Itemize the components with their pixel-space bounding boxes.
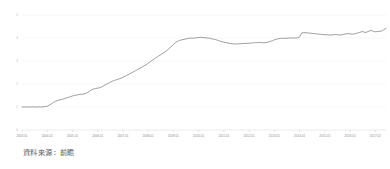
data-series-group [22,28,386,107]
gridlines-group [22,15,386,107]
y-axis-tick-label: 5 [16,13,18,17]
x-axis-tick-label: 2011.01 [218,134,229,138]
x-axis-tick-label: 2016.01 [345,134,356,138]
x-axis-tick-label: 2014.01 [294,134,305,138]
y-axis-tick-label: 1 [16,105,18,109]
line-chart-svg: 012345 2003.012004.012005.012006.012007.… [0,0,390,140]
chart-container: 012345 2003.012004.012005.012006.012007.… [0,0,390,169]
x-axis-tick-label: 2013.01 [269,134,280,138]
x-axis-tick-label: 2006.01 [92,134,103,138]
x-axis-tick-label: 2005.01 [67,134,78,138]
y-axis-tick-label: 0 [16,128,18,132]
y-axis-tick-labels: 012345 [16,13,18,132]
x-axis-tick-labels: 2003.012004.012005.012006.012007.012008.… [16,134,381,138]
x-axis-tick-label: 2015.01 [319,134,330,138]
series-line [22,28,386,107]
y-axis-tick-label: 3 [16,59,18,63]
x-axis-tick-label: 2012.01 [244,134,255,138]
x-axis-tick-label: 2017.01 [370,134,381,138]
x-axis-tick-label: 2004.01 [42,134,53,138]
x-axis-tick-label: 2003.01 [16,134,27,138]
x-axis-tick-label: 2010.01 [193,134,204,138]
x-axis-tick-label: 2008.01 [143,134,154,138]
y-axis-tick-label: 2 [16,82,18,86]
y-axis-tick-label: 4 [16,36,18,40]
x-axis-tick-label: 2007.01 [117,134,128,138]
x-axis-tick-label: 2009.01 [168,134,179,138]
plot-area: 012345 2003.012004.012005.012006.012007.… [0,0,390,140]
x-axis-tick-marks [22,130,375,132]
source-note: 資料來源：前瞻 [23,147,75,157]
